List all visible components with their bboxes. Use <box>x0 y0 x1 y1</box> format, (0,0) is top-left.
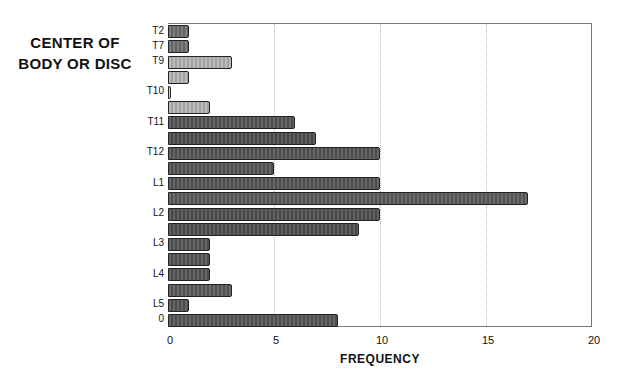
x-tick-label: 15 <box>473 334 503 346</box>
gridline <box>274 24 275 326</box>
bar <box>168 25 189 38</box>
y-tick-label: T9 <box>124 55 164 66</box>
bar <box>168 101 210 114</box>
bar <box>168 314 338 327</box>
bar <box>168 268 210 281</box>
bar <box>168 177 380 190</box>
x-tick-label: 20 <box>579 334 609 346</box>
bar <box>168 116 295 129</box>
bar <box>168 299 189 312</box>
bar <box>168 56 232 69</box>
x-tick-label: 5 <box>261 334 291 346</box>
bar <box>168 132 316 145</box>
bar <box>168 238 210 251</box>
bar <box>168 223 359 236</box>
y-tick-label: L1 <box>124 177 164 188</box>
y-tick-label: 0 <box>124 313 164 324</box>
bar <box>168 284 232 297</box>
bar <box>168 71 189 84</box>
y-tick-label: T11 <box>124 116 164 127</box>
gridline <box>486 24 487 326</box>
y-tick-label: T7 <box>124 40 164 51</box>
y-tick-label: L5 <box>124 298 164 309</box>
x-axis-title: FREQUENCY <box>168 352 592 366</box>
y-tick-label: T12 <box>124 146 164 157</box>
y-tick-label: L4 <box>124 268 164 279</box>
y-tick-label: T10 <box>124 85 164 96</box>
bar <box>168 86 171 99</box>
bar <box>168 162 274 175</box>
y-tick-label: L2 <box>124 207 164 218</box>
x-tick-label: 10 <box>367 334 397 346</box>
y-tick-label: T2 <box>124 25 164 36</box>
gridline <box>380 24 381 326</box>
bar <box>168 253 210 266</box>
bar <box>168 40 189 53</box>
x-tick-label: 0 <box>155 334 185 346</box>
y-axis-title: CENTER OF BODY OR DISC <box>0 32 150 74</box>
y-tick-label: L3 <box>124 237 164 248</box>
bar <box>168 147 380 160</box>
plot-area <box>168 23 592 327</box>
bar <box>168 192 528 205</box>
bar <box>168 208 380 221</box>
